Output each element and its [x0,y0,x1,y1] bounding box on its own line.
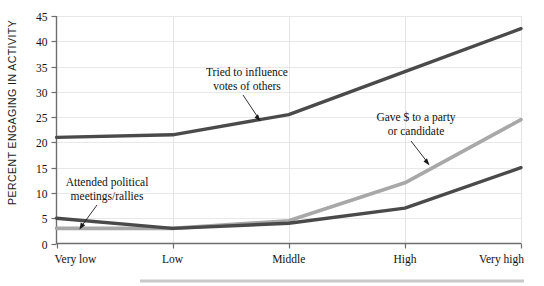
y-tick-label-15: 15 [36,163,48,175]
y-tick-label-45: 45 [36,11,48,23]
y-tick-label-25: 25 [36,112,48,124]
annotation-meetings-line1: Attended political [66,176,149,189]
y-tick-label-30: 30 [36,87,48,99]
x-category-label-2: Middle [272,253,305,265]
vertical-gridlines [174,16,522,244]
x-axis-category-labels: Very lowLowMiddleHighVery high [55,253,525,266]
annotation-gave-money-line2: or candidate [388,125,445,137]
annotation-gave-money-arrowhead [424,158,430,165]
annotation-influence-leader [243,95,259,119]
annotation-meetings-leader [81,205,97,227]
y-tick-label-10: 10 [36,188,48,200]
annotation-influence: Tried to influence votes of others [206,66,288,122]
annotation-meetings-line2: meetings/rallies [71,190,144,203]
y-tick-label-35: 35 [36,62,48,74]
annotation-influence-line2: votes of others [213,80,281,92]
x-category-label-4: Very high [479,253,524,266]
line-chart-canvas: 051015202530354045 Very lowLowMiddleHigh… [0,0,544,286]
x-category-label-3: High [393,253,416,266]
y-tick-label-40: 40 [36,36,48,48]
annotation-influence-line1: Tried to influence [206,66,288,78]
y-tick-label-0: 0 [42,239,48,251]
y-axis-title: PERCENT ENGAGING IN ACTIVITY [6,20,18,205]
x-category-label-0: Very low [55,253,98,266]
annotation-gave-money-line1: Gave $ to a party [376,111,455,124]
annotation-gave-money: Gave $ to a party or candidate [376,111,455,166]
x-category-label-1: Low [162,253,184,265]
y-tick-label-5: 5 [42,213,48,225]
y-tick-label-20: 20 [36,137,48,149]
x-axis-ticks [58,244,522,249]
chart-figure: 051015202530354045 Very lowLowMiddleHigh… [0,0,544,286]
y-axis-ticks: 051015202530354045 [36,11,57,251]
